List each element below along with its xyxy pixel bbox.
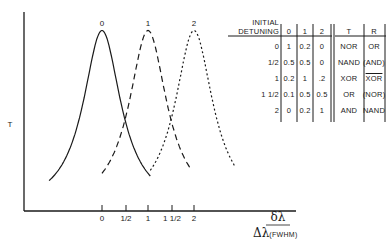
cell-curve-1: 0.2 xyxy=(299,42,310,51)
curve-label-1: 1 xyxy=(146,19,150,28)
x-ticks xyxy=(102,205,194,211)
row-detuning: 0 xyxy=(275,42,279,51)
table-header-line2: DETUNING xyxy=(238,27,279,36)
cell-r-logic: NAND xyxy=(363,106,385,115)
curve-2-dotted xyxy=(150,31,235,171)
curve-0-solid xyxy=(49,31,150,181)
cell-r-logic: XOR xyxy=(366,74,383,83)
cell-curve-1: 1 xyxy=(303,74,307,83)
cell-curve-0: 1 xyxy=(287,42,291,51)
row-detuning: 1/2 xyxy=(268,58,279,67)
cell-t-logic: NAND xyxy=(338,58,360,67)
transmission-diagram: T 0 1/2 1 1 1/2 2 0 1 2 δλ Δλ(FWHM) INIT… xyxy=(0,0,387,250)
cell-t-logic: NOR xyxy=(340,42,357,51)
curve-1-dashed xyxy=(102,31,191,174)
col-header: 2 xyxy=(320,27,324,36)
cell-r-logic: (NOR) xyxy=(363,90,386,99)
col-header: R xyxy=(371,27,377,36)
curve-label-2: 2 xyxy=(192,19,196,28)
cell-r-logic: OR xyxy=(368,42,380,51)
x-tick-label: 0 xyxy=(100,214,104,223)
cell-curve-2: 0 xyxy=(320,42,324,51)
x-tick-label: 1 1/2 xyxy=(163,214,181,223)
x-axis-label-delta: Δλ xyxy=(253,226,269,240)
curve-label-0: 0 xyxy=(100,19,104,28)
plot-canvas xyxy=(0,0,387,250)
row-detuning: 1 1/2 xyxy=(261,90,279,99)
cell-t-logic: XOR xyxy=(341,74,358,83)
cell-curve-2: 1 xyxy=(320,106,324,115)
cell-curve-2: 0.5 xyxy=(316,90,327,99)
cell-curve-2: 0 xyxy=(320,58,324,67)
cell-curve-2: .2 xyxy=(319,74,326,83)
x-tick-label: 2 xyxy=(192,214,196,223)
cell-curve-0: 0.5 xyxy=(283,58,294,67)
cell-t-logic: AND xyxy=(341,106,357,115)
x-tick-label: 1 xyxy=(146,214,150,223)
cell-curve-1: 0.5 xyxy=(299,58,310,67)
x-axis-label-numerator: δλ xyxy=(271,211,286,224)
cell-curve-1: 0.5 xyxy=(299,90,310,99)
col-header: 0 xyxy=(287,27,291,36)
x-tick-label: 1/2 xyxy=(120,214,131,223)
x-axis-label-denominator: Δλ(FWHM) xyxy=(253,227,298,241)
row-detuning: 2 xyxy=(275,106,279,115)
cell-curve-0: 0.1 xyxy=(283,90,294,99)
x-axis-label-suffix: (FWHM) xyxy=(269,231,297,238)
row-detuning: 1 xyxy=(275,74,279,83)
cell-curve-0: 0 xyxy=(287,106,291,115)
cell-r-logic: (AND) xyxy=(363,58,385,67)
cell-t-logic: OR xyxy=(343,90,355,99)
table-header-line1: INITIAL xyxy=(252,18,279,27)
col-header: 1 xyxy=(303,27,307,36)
y-axis-label: T xyxy=(8,120,13,129)
col-header: T xyxy=(347,27,352,36)
cell-curve-0: 0.2 xyxy=(283,74,294,83)
cell-curve-1: 0.2 xyxy=(299,106,310,115)
